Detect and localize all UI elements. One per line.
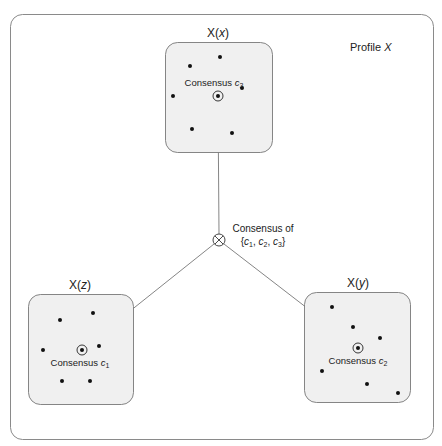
point-dot-icon — [240, 86, 244, 90]
point-dot-icon — [378, 336, 382, 340]
group-x-consensus-dot-icon — [216, 94, 220, 98]
group-z: X(z) Consensus c1 — [29, 278, 134, 405]
profile-label: Profile X — [350, 41, 392, 53]
point-dot-icon — [365, 382, 369, 386]
point-dot-icon — [396, 391, 400, 395]
point-dot-icon — [330, 305, 334, 309]
point-dot-icon — [190, 127, 194, 131]
point-dot-icon — [188, 64, 192, 68]
group-y: X(y) Consensus c2 — [305, 276, 411, 403]
group-y-consensus-label: Consensus c2 — [329, 355, 388, 367]
point-dot-icon — [171, 94, 175, 98]
point-dot-icon — [230, 131, 234, 135]
point-dot-icon — [320, 369, 324, 373]
group-y-consensus-dot-icon — [356, 346, 360, 350]
point-dot-icon — [41, 348, 45, 352]
point-dot-icon — [91, 311, 95, 315]
group-z-consensus-label: Consensus c1 — [51, 357, 110, 369]
point-dot-icon — [58, 318, 62, 322]
diagram-canvas: Profile X X(x) Consensus c3 X(z) Consens… — [0, 0, 442, 446]
group-x-title: X(x) — [207, 26, 229, 40]
group-y-title: X(y) — [347, 276, 369, 290]
point-dot-icon — [351, 325, 355, 329]
group-x-consensus-label: Consensus c3 — [185, 77, 244, 89]
central-label-line1: Consensus of — [232, 223, 293, 234]
point-dot-icon — [88, 379, 92, 383]
point-dot-icon — [97, 344, 101, 348]
group-x: X(x) Consensus c3 — [166, 26, 273, 153]
group-z-title: X(z) — [69, 278, 91, 292]
group-z-consensus-dot-icon — [80, 348, 84, 352]
point-dot-icon — [218, 55, 222, 59]
point-dot-icon — [60, 379, 64, 383]
